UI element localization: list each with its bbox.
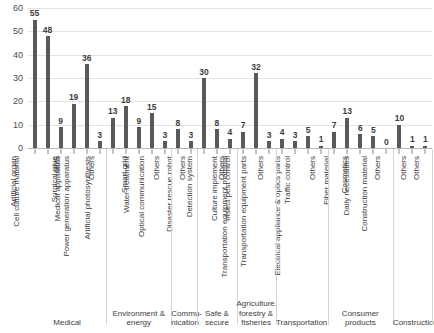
bar-value-label: 3 <box>189 131 194 140</box>
bar-slot: 13 <box>341 8 354 148</box>
tick-mark <box>386 149 387 154</box>
tick-mark <box>425 149 426 154</box>
x-axis-tick-label: Others <box>413 156 421 180</box>
x-axis-tick-label: Others <box>309 156 317 180</box>
bar[interactable] <box>423 146 427 148</box>
x-axis-tick-label: Traffic control <box>284 156 292 204</box>
bar[interactable] <box>254 73 258 148</box>
tick-mark <box>203 149 204 154</box>
bar[interactable] <box>280 139 284 148</box>
bar[interactable] <box>137 127 141 148</box>
bar-value-label: 19 <box>69 93 78 102</box>
bar-value-label: 1 <box>319 135 324 144</box>
x-axis-tick-label: Optical communication <box>137 156 145 237</box>
tick-mark <box>334 149 335 154</box>
bar-slot: 55 <box>28 8 41 148</box>
bar[interactable] <box>46 36 50 148</box>
bar-slot: 9 <box>54 8 67 148</box>
tick-mark <box>73 149 74 154</box>
bar[interactable] <box>358 134 362 148</box>
tick-mark <box>308 149 309 154</box>
bar[interactable] <box>124 106 128 148</box>
bar-slot: 4 <box>276 8 289 148</box>
bar[interactable] <box>215 129 219 148</box>
bar[interactable] <box>345 118 349 148</box>
tick-mark <box>112 149 113 154</box>
bar[interactable] <box>319 146 323 148</box>
bar-value-label: 30 <box>199 68 208 77</box>
bar-chart: 6050403020100 55489193631318915383308473… <box>0 0 434 333</box>
x-axis-tick-label: Daily necessities <box>344 156 352 216</box>
bar[interactable] <box>410 146 414 148</box>
bar[interactable] <box>228 139 232 148</box>
bar[interactable] <box>59 127 63 148</box>
x-axis-tick-label: Cell culture material <box>12 156 20 227</box>
bar[interactable] <box>306 136 310 148</box>
tick-mark <box>125 149 126 154</box>
y-axis-tick-label: 50 <box>13 27 23 36</box>
tick-mark <box>412 149 413 154</box>
bar-value-label: 6 <box>358 124 363 133</box>
tick-mark <box>138 149 139 154</box>
bar-value-label: 4 <box>228 128 233 137</box>
bar[interactable] <box>332 132 336 148</box>
y-axis-tick-label: 0 <box>18 144 23 153</box>
bar-slot: 6 <box>354 8 367 148</box>
group-separator <box>106 149 107 325</box>
y-axis-tick-label: 60 <box>13 4 23 13</box>
bar-slot: 5 <box>302 8 315 148</box>
x-axis-tick: Power generation apparatus <box>106 149 119 289</box>
x-axis-tick: Others <box>93 149 106 289</box>
group-separator <box>276 149 277 325</box>
tick-mark <box>34 149 35 154</box>
bar-slot: 1 <box>315 8 328 148</box>
bar[interactable] <box>98 141 102 148</box>
bar[interactable] <box>111 118 115 148</box>
x-axis-tick: Others <box>419 149 432 289</box>
bar[interactable] <box>85 64 89 148</box>
bar[interactable] <box>150 113 154 148</box>
x-axis-tick-label: Others <box>153 156 161 180</box>
x-axis-tick-label: Transportation equipment material <box>221 156 229 278</box>
bar-series: 5548919363131891538330847323435171365010… <box>28 8 432 148</box>
tick-mark <box>373 149 374 154</box>
bar-slot: 1 <box>406 8 419 148</box>
bar-slot: 0 <box>380 8 393 148</box>
tick-mark <box>60 149 61 154</box>
group-separator <box>171 149 172 325</box>
y-axis-tick-label: 20 <box>13 97 23 106</box>
x-axis-tick-label: Construction material <box>362 156 370 232</box>
bar-value-label: 32 <box>251 63 260 72</box>
bar[interactable] <box>293 141 297 148</box>
bar[interactable] <box>33 20 37 148</box>
bar[interactable] <box>397 125 401 148</box>
bar[interactable] <box>72 104 76 148</box>
bar[interactable] <box>189 141 193 148</box>
bar-slot: 32 <box>250 8 263 148</box>
bar[interactable] <box>176 129 180 148</box>
bar-slot: 36 <box>80 8 93 148</box>
x-axis-tick: Others <box>380 149 393 289</box>
tick-mark <box>295 149 296 154</box>
bar-value-label: 7 <box>241 121 246 130</box>
bar[interactable] <box>163 141 167 148</box>
bar[interactable] <box>267 141 271 148</box>
tick-mark <box>164 149 165 154</box>
group-label: Agriculture, forestry & fisheries <box>237 299 276 327</box>
bar-slot: 3 <box>158 8 171 148</box>
bar-value-label: 9 <box>58 117 63 126</box>
x-axis-tick-label: Culture implement <box>211 156 219 221</box>
bar-value-label: 9 <box>136 117 141 126</box>
tick-mark <box>216 149 217 154</box>
bar-value-label: 15 <box>147 103 156 112</box>
bar[interactable] <box>202 78 206 148</box>
x-axis-tick: Disaster rescue robot <box>197 149 210 289</box>
tick-mark <box>151 149 152 154</box>
bar[interactable] <box>371 136 375 148</box>
group-separator <box>432 149 433 325</box>
bar-value-label: 3 <box>267 131 272 140</box>
y-axis: 6050403020100 <box>0 8 26 148</box>
bar-value-label: 3 <box>162 131 167 140</box>
group-label: Consumer products <box>328 309 393 327</box>
bar[interactable] <box>241 132 245 148</box>
